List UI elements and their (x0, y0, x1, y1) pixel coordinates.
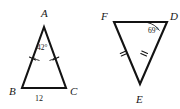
triangle-abc-outline (22, 27, 66, 88)
side-length-bc: 12 (35, 94, 43, 103)
triangle-abc-group: A B C 42° 12 (9, 7, 78, 103)
geometry-figure-canvas: A B C 42° 12 F D E 69° (0, 0, 180, 109)
angle-measure-d: 69° (148, 26, 159, 35)
vertex-label-e: E (135, 93, 143, 105)
tick-mark-fe-2 (121, 54, 127, 57)
tick-mark-de-1 (142, 51, 148, 54)
tick-mark-de-2 (141, 54, 147, 57)
vertex-label-c: C (70, 85, 78, 97)
triangle-fde-group: F D E 69° (100, 10, 178, 105)
vertex-label-b: B (9, 85, 16, 97)
angle-measure-a: 42° (37, 43, 48, 52)
tick-mark-fe-1 (120, 51, 126, 54)
vertex-label-a: A (40, 7, 48, 19)
vertex-label-d: D (169, 10, 178, 22)
vertex-label-f: F (100, 10, 108, 22)
geometry-diagram: A B C 42° 12 F D E 69° (0, 0, 180, 109)
